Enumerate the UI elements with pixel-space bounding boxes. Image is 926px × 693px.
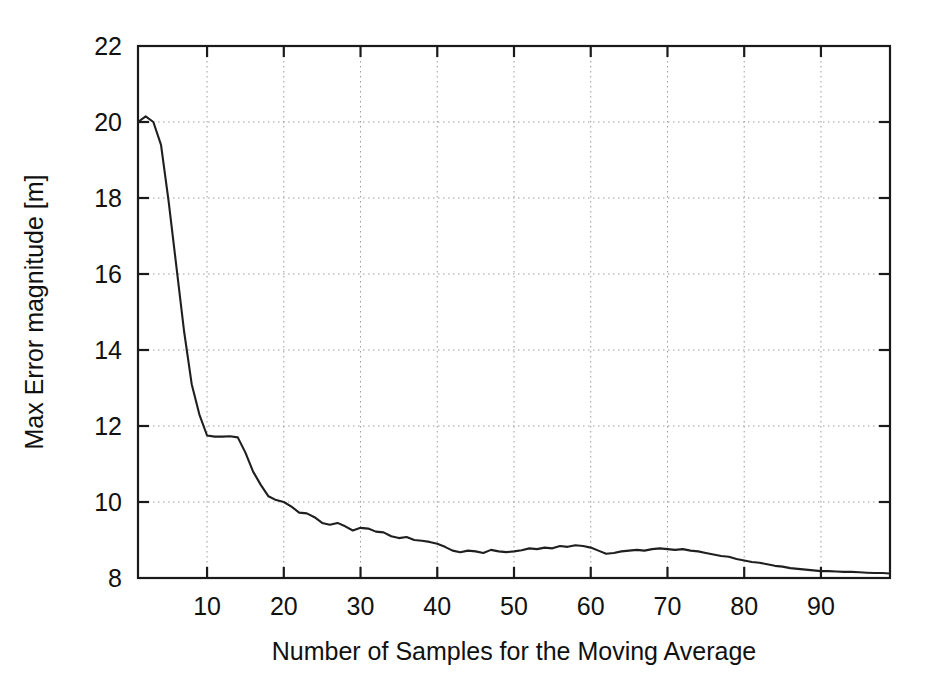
- data-line-max-error: [138, 116, 890, 573]
- line-chart-canvas: 810121416182022 102030405060708090 Numbe…: [0, 0, 926, 693]
- y-tick-label: 18: [94, 184, 122, 212]
- x-axis-tick-labels: 102030405060708090: [193, 592, 835, 620]
- x-tick-label: 70: [654, 592, 682, 620]
- y-axis-tick-labels: 810121416182022: [94, 32, 122, 592]
- grid-lines: [138, 46, 890, 578]
- x-tick-label: 10: [193, 592, 221, 620]
- y-tick-label: 8: [108, 564, 122, 592]
- y-axis-title: Max Error magnitude [m]: [20, 174, 48, 449]
- x-axis-title: Number of Samples for the Moving Average: [272, 637, 757, 665]
- x-tick-label: 80: [730, 592, 758, 620]
- y-tick-label: 22: [94, 32, 122, 60]
- y-tick-label: 14: [94, 336, 122, 364]
- x-tick-label: 30: [347, 592, 375, 620]
- x-tick-label: 60: [577, 592, 605, 620]
- x-tick-label: 20: [270, 592, 298, 620]
- x-tick-label: 40: [423, 592, 451, 620]
- x-tick-label: 50: [500, 592, 528, 620]
- data-series-group: [138, 116, 890, 573]
- x-tick-label: 90: [807, 592, 835, 620]
- y-tick-label: 20: [94, 108, 122, 136]
- chart-figure: 810121416182022 102030405060708090 Numbe…: [0, 0, 926, 693]
- y-tick-label: 12: [94, 412, 122, 440]
- y-tick-label: 16: [94, 260, 122, 288]
- y-tick-label: 10: [94, 488, 122, 516]
